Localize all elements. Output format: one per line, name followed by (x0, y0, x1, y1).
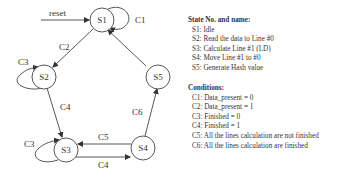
transition-label-c3-s3: C3 (24, 139, 35, 149)
state-legend-item: S2: Read the data to Line #0 (188, 35, 274, 45)
states-legend-title: State No. and name: (188, 16, 274, 26)
state-s4-label: S4 (138, 143, 148, 153)
transition-label-c3-s2: C3 (18, 57, 29, 67)
state-s5-label: S5 (153, 72, 163, 82)
condition-legend-item: C4: Finished = 1 (188, 122, 319, 132)
transition-label-c4-s2s3: C4 (60, 102, 71, 112)
reset-label: reset (49, 8, 66, 18)
state-s3-label: S3 (61, 145, 71, 155)
conditions-legend: Conditions: C1: Data_present = 0 C2: Dat… (188, 84, 319, 151)
transition-label-c4-s3s4: C4 (98, 160, 109, 170)
transition-label-c2: C2 (59, 42, 70, 52)
transition-label-c6: C6 (132, 107, 143, 117)
state-diagram: S1 S2 S3 S4 S5 reset C1 C2 C3 C4 C3 C4 C… (0, 0, 180, 177)
condition-legend-item: C1: Data_present = 0 (188, 94, 319, 104)
state-s1-label: S1 (97, 15, 107, 25)
state-legend-item: S1: Idle (188, 26, 274, 36)
states-legend: State No. and name: S1: Idle S2: Read th… (188, 16, 274, 74)
condition-legend-item: C6: All the lines calculation are finish… (188, 142, 319, 152)
condition-legend-item: C2: Data_present = 1 (188, 103, 319, 113)
transition-label-c5: C5 (98, 132, 109, 142)
condition-legend-item: C3: Finished = 0 (188, 113, 319, 123)
condition-legend-item: C5: All the lines calculation are not fi… (188, 132, 319, 142)
transition-label-c1: C1 (135, 15, 146, 25)
state-legend-item: S3: Calculate Line #1 (LD) (188, 45, 274, 55)
state-legend-item: S4: Move Line #1 to #0 (188, 54, 274, 64)
state-legend-item: S5: Generate Hash value (188, 64, 274, 74)
transition-s2-s3 (47, 88, 62, 137)
conditions-legend-title: Conditions: (188, 84, 319, 94)
transition-s4-s5 (145, 89, 157, 136)
transition-s5-s1 (108, 30, 146, 66)
state-s2-label: S2 (39, 72, 49, 82)
